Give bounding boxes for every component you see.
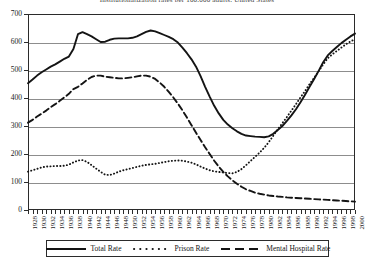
x-tick-mark <box>64 210 65 214</box>
x-tick-mark <box>260 210 261 214</box>
x-tick-mark <box>60 210 61 214</box>
x-tick-mark <box>46 210 47 214</box>
x-tick-mark <box>328 210 329 214</box>
x-tick-mark <box>169 210 170 214</box>
x-tick-label: 1992 <box>322 216 330 230</box>
x-tick-mark <box>105 210 106 214</box>
x-tick-mark <box>164 210 165 214</box>
x-tick-mark <box>178 210 179 214</box>
x-tick-mark <box>346 210 347 214</box>
series-lines <box>28 14 355 210</box>
chart-legend: Total Rate Prison Rate Mental Hospital R… <box>46 240 329 257</box>
y-tick-label: 700 <box>0 9 22 18</box>
x-tick-mark <box>223 210 224 214</box>
x-tick-mark <box>319 210 320 214</box>
x-tick-mark <box>210 210 211 214</box>
y-tick-label: 500 <box>0 65 22 74</box>
x-tick-mark <box>96 210 97 214</box>
x-tick-mark <box>350 210 351 214</box>
line-total-rate <box>28 31 355 138</box>
x-tick-mark <box>241 210 242 214</box>
x-tick-mark <box>55 210 56 214</box>
x-tick-label: 1998 <box>349 216 357 230</box>
y-tick-label: 600 <box>0 37 22 46</box>
y-tick-label: 100 <box>0 177 22 186</box>
x-tick-label: 1928 <box>31 216 39 230</box>
x-tick-label: 1970 <box>222 216 230 230</box>
x-tick-mark <box>255 210 256 214</box>
x-tick-mark <box>251 210 252 214</box>
x-tick-mark <box>269 210 270 214</box>
x-tick-mark <box>214 210 215 214</box>
x-tick-label: 1990 <box>313 216 321 230</box>
x-tick-mark <box>155 210 156 214</box>
legend-label-prison: Prison Rate <box>175 244 210 253</box>
x-tick-mark <box>219 210 220 214</box>
x-tick-label: 1946 <box>113 216 121 230</box>
x-tick-label: 1982 <box>276 216 284 230</box>
x-tick-label: 1986 <box>294 216 302 230</box>
x-tick-label: 1948 <box>122 216 130 230</box>
x-tick-mark <box>201 210 202 214</box>
x-tick-label: 1934 <box>58 216 66 230</box>
x-tick-mark <box>87 210 88 214</box>
x-tick-mark <box>323 210 324 214</box>
legend-item-prison: Prison Rate <box>133 244 210 253</box>
x-tick-label: 1974 <box>240 216 248 230</box>
x-tick-mark <box>273 210 274 214</box>
x-tick-mark <box>160 210 161 214</box>
x-tick-mark <box>205 210 206 214</box>
x-tick-label: 1950 <box>131 216 139 230</box>
x-tick-label: 1964 <box>195 216 203 230</box>
x-tick-label: 1952 <box>140 216 148 230</box>
x-tick-mark <box>355 210 356 214</box>
x-tick-mark <box>287 210 288 214</box>
x-tick-mark <box>83 210 84 214</box>
x-tick-label: 1988 <box>304 216 312 230</box>
x-tick-label: 1996 <box>340 216 348 230</box>
x-tick-label: 1930 <box>40 216 48 230</box>
x-tick-label: 1932 <box>49 216 57 230</box>
x-tick-mark <box>42 210 43 214</box>
legend-label-total: Total Rate <box>91 244 122 253</box>
x-tick-label: 1954 <box>149 216 157 230</box>
x-tick-label: 1936 <box>67 216 75 230</box>
legend-swatch-dotted <box>133 245 171 253</box>
x-tick-mark <box>282 210 283 214</box>
x-tick-mark <box>228 210 229 214</box>
x-tick-mark <box>337 210 338 214</box>
x-tick-label: 1960 <box>176 216 184 230</box>
x-tick-mark <box>301 210 302 214</box>
x-tick-mark <box>33 210 34 214</box>
x-tick-mark <box>137 210 138 214</box>
x-tick-mark <box>123 210 124 214</box>
legend-label-mental: Mental Hospital Rate <box>266 244 330 253</box>
x-tick-mark <box>182 210 183 214</box>
x-tick-mark <box>232 210 233 214</box>
x-tick-mark <box>278 210 279 214</box>
x-tick-label: 1958 <box>167 216 175 230</box>
chart-container: Institutionalization rates per 100,000 a… <box>0 0 374 264</box>
x-tick-label: 1962 <box>185 216 193 230</box>
x-tick-label: 1940 <box>86 216 94 230</box>
x-tick-mark <box>28 210 29 214</box>
x-tick-mark <box>196 210 197 214</box>
x-tick-label: 1942 <box>95 216 103 230</box>
x-tick-label: 1980 <box>267 216 275 230</box>
x-tick-label: 1938 <box>76 216 84 230</box>
y-tick-label: 300 <box>0 121 22 130</box>
x-tick-mark <box>114 210 115 214</box>
x-tick-label: 1976 <box>249 216 257 230</box>
x-tick-mark <box>296 210 297 214</box>
x-tick-mark <box>142 210 143 214</box>
y-tick-label: 400 <box>0 93 22 102</box>
x-tick-label: 1944 <box>104 216 112 230</box>
legend-swatch-solid <box>45 245 87 253</box>
x-tick-label: 1966 <box>204 216 212 230</box>
x-tick-mark <box>237 210 238 214</box>
x-tick-mark <box>264 210 265 214</box>
x-tick-mark <box>92 210 93 214</box>
x-tick-mark <box>146 210 147 214</box>
x-tick-mark <box>310 210 311 214</box>
legend-item-mental: Mental Hospital Rate <box>220 244 330 253</box>
